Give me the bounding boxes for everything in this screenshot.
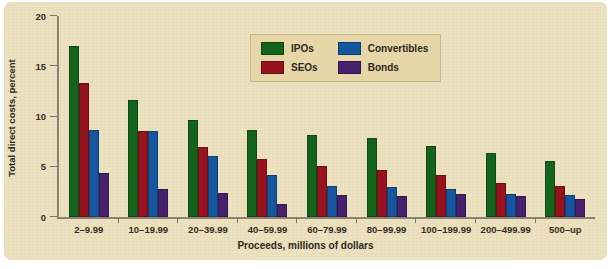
y-axis-tick-label: 5 (41, 161, 46, 172)
x-axis-tick-label: 500–up (536, 224, 596, 235)
y-axis-tick-mark (50, 116, 57, 117)
legend-item: SEOs (261, 61, 318, 74)
bar-group (59, 16, 119, 217)
bar (486, 153, 496, 217)
x-axis-tick-label: 80–99.99 (357, 224, 417, 235)
y-axis-tick-mark (50, 15, 57, 16)
bar (367, 138, 377, 217)
bar (317, 166, 327, 217)
y-axis-tick-mark (50, 216, 57, 217)
x-axis-tick-label: 20–39.99 (178, 224, 238, 235)
bar (148, 131, 158, 217)
bar (277, 204, 287, 217)
x-axis-tick-label: 200–499.99 (476, 224, 536, 235)
x-axis-tick-label: 40–59.99 (238, 224, 298, 235)
bar (218, 193, 228, 217)
legend-swatch (338, 42, 361, 55)
y-axis-tick-label: 20 (35, 10, 46, 21)
bar (555, 186, 565, 217)
y-axis-tick: 20 (50, 15, 57, 16)
legend-label: SEOs (291, 62, 318, 73)
bar (138, 131, 148, 217)
y-axis-tick: 0 (50, 216, 57, 217)
chart-panel: 05101520 Total direct costs, percent 2–9… (4, 2, 607, 260)
x-axis-tick-mark (535, 217, 536, 223)
y-axis-tick-mark (50, 166, 57, 167)
bar (128, 100, 138, 217)
x-axis-tick-mark (415, 217, 416, 223)
x-axis-tick-mark (177, 217, 178, 223)
y-axis-tick: 5 (50, 166, 57, 167)
bar (426, 146, 436, 217)
bar (446, 189, 456, 217)
y-axis-tick-mark (50, 65, 57, 66)
x-axis-tick-mark (237, 217, 238, 223)
x-axis-tick-mark (475, 217, 476, 223)
bar (545, 161, 555, 217)
bar (436, 175, 446, 217)
bar (158, 189, 168, 217)
bar (397, 196, 407, 217)
y-axis-tick: 10 (50, 116, 57, 117)
bar (99, 173, 109, 217)
bar-group (119, 16, 179, 217)
y-axis-title: Total direct costs, percent (6, 59, 17, 177)
bar (307, 135, 317, 217)
bar (208, 156, 218, 217)
x-axis-tick-mark (296, 217, 297, 223)
x-axis-title: Proceeds, millions of dollars (4, 240, 607, 251)
bar (456, 194, 466, 217)
x-axis-tick-labels: 2–9.9910–19.9920–39.9940–59.9960–79.9980… (59, 224, 595, 235)
x-axis-tick-label: 2–9.99 (59, 224, 119, 235)
bar-group (178, 16, 238, 217)
bar-group (536, 16, 596, 217)
legend-swatch (261, 61, 284, 74)
legend-item: Convertibles (338, 42, 429, 55)
legend-label: IPOs (291, 43, 314, 54)
x-axis-line (57, 217, 595, 219)
bar-group (476, 16, 536, 217)
bar (198, 147, 208, 217)
bar (89, 130, 99, 217)
legend-label: Bonds (368, 62, 399, 73)
bar (267, 175, 277, 217)
bar (247, 130, 257, 217)
y-axis-tick-label: 10 (35, 111, 46, 122)
bar (496, 183, 506, 217)
x-axis-tick-label: 10–19.99 (119, 224, 179, 235)
bar (387, 187, 397, 217)
y-axis-tick-label: 15 (35, 60, 46, 71)
bar (69, 46, 79, 217)
bar (337, 195, 347, 217)
bar (257, 159, 267, 217)
bar (565, 195, 575, 217)
x-axis-tick-mark (356, 217, 357, 223)
y-axis-tick-label: 0 (41, 211, 46, 222)
bar (188, 120, 198, 217)
legend-item: IPOs (261, 42, 318, 55)
bar (516, 196, 526, 217)
x-axis-tick-label: 60–79.99 (297, 224, 357, 235)
x-axis-tick-mark (118, 217, 119, 223)
legend-item: Bonds (338, 61, 429, 74)
legend-swatch (338, 61, 361, 74)
bar (79, 83, 89, 217)
legend-swatch (261, 42, 284, 55)
chart-legend: IPOsConvertiblesSEOsBonds (250, 34, 441, 82)
bar (575, 199, 585, 217)
bar (506, 194, 516, 217)
bar (327, 186, 337, 217)
bar (377, 170, 387, 217)
x-axis-tick-label: 100–199.99 (416, 224, 476, 235)
y-axis-tick: 15 (50, 65, 57, 66)
legend-label: Convertibles (368, 43, 429, 54)
